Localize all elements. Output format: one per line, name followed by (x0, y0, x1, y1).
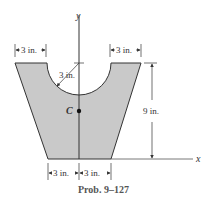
top-left-dim-label: 3 in. (21, 45, 37, 55)
bottom-right-dim-label: 3 in. (84, 168, 100, 178)
x-axis-label: x (195, 153, 201, 164)
figure-canvas: y x C 3 in. 3 in. 3 in. 9 in. 3 in. 3 in… (0, 0, 211, 213)
figure-caption: Prob. 9–127 (78, 184, 129, 195)
centroid-label: C (66, 105, 73, 116)
centroid-dot (77, 109, 81, 113)
top-right-dim-label: 3 in. (116, 45, 132, 55)
trapezoid-with-semicircle-cutout-diagram: y x C 3 in. 3 in. 3 in. 9 in. 3 in. 3 in… (0, 0, 211, 213)
bottom-left-dim-label: 3 in. (53, 168, 69, 178)
height-dim-label: 9 in. (143, 106, 159, 116)
radius-dim-label: 3 in. (59, 70, 75, 80)
y-axis-label: y (75, 10, 81, 21)
